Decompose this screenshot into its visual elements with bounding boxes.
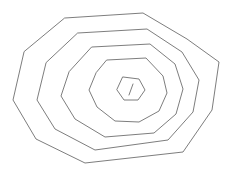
figure-background bbox=[0, 0, 228, 170]
figure-root bbox=[0, 0, 228, 170]
spiral-diagram bbox=[0, 0, 228, 170]
